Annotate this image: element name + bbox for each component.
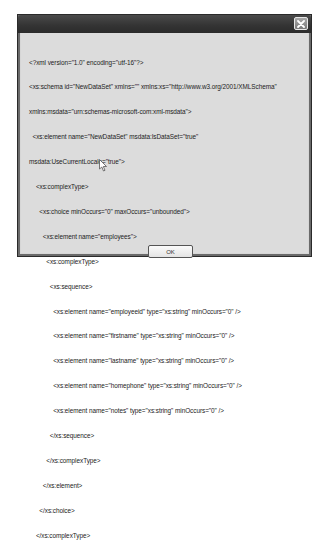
xml-line: <xs:element name="firstname" type="xs:st… [29,332,304,340]
xml-line: </xs:choice> [29,507,304,515]
xml-line: <xs:schema id="NewDataSet" xmlns="" xmln… [29,83,304,91]
xml-line: <?xml version="1.0" encoding="utf-16"?> [29,59,304,67]
ok-button[interactable]: OK [148,245,193,258]
xml-line: </xs:complexType> [29,457,304,465]
dialog-content: <?xml version="1.0" encoding="utf-16"?> … [21,33,308,253]
xml-line: xmlns:msdata="urn:schemas-microsoft-com:… [29,108,304,116]
xml-schema-text: <?xml version="1.0" encoding="utf-16"?> … [29,42,304,540]
xml-line: </xs:element> [29,482,304,490]
dialog-titlebar[interactable] [18,15,311,33]
xml-line: <xs:sequence> [29,283,304,291]
xml-line: <xs:element name="notes" type="xs:string… [29,407,304,415]
xml-line: <xs:element name="employees"> [29,233,304,241]
xml-line: <xs:element name="lastname" type="xs:str… [29,357,304,365]
xml-line: <xs:element name="employeeid" type="xs:s… [29,308,304,316]
xml-line: <xs:choice minOccurs="0" maxOccurs="unbo… [29,208,304,216]
xml-line: <xs:complexType> [29,258,304,266]
xml-line: <xs:element name="homephone" type="xs:st… [29,382,304,390]
xml-line: <xs:complexType> [29,183,304,191]
xml-line: </xs:sequence> [29,432,304,440]
xml-schema-dialog: <?xml version="1.0" encoding="utf-16"?> … [17,14,312,257]
xml-line: <xs:element name="NewDataSet" msdata:IsD… [29,133,304,141]
close-button[interactable] [294,17,308,30]
close-x-icon [297,20,305,28]
mouse-pointer-icon [99,158,108,176]
xml-line: </xs:complexType> [29,532,304,540]
xml-line: msdata:UseCurrentLocale="true"> [29,158,304,166]
